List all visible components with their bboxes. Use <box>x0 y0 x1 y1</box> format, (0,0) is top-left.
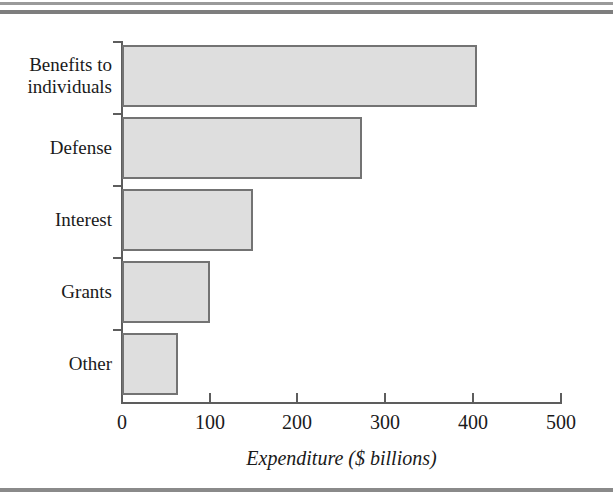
y-axis-tick <box>113 257 123 259</box>
x-axis-tick <box>209 393 211 404</box>
bar-interest <box>122 189 253 251</box>
page-rule-bottom <box>0 488 613 492</box>
y-tick-label-benefits-to-individuals: Benefits to individuals <box>4 54 112 98</box>
bar-defense <box>122 117 362 179</box>
x-axis-tick <box>384 393 386 404</box>
y-axis-tick <box>113 113 123 115</box>
bar-grants <box>122 261 210 323</box>
x-axis-tick <box>560 393 562 404</box>
y-tick-label-defense: Defense <box>4 137 112 159</box>
y-tick-label-other: Other <box>4 353 112 375</box>
y-axis-tick <box>113 329 123 331</box>
y-tick-label-interest: Interest <box>4 209 112 231</box>
x-tick-label-300: 300 <box>355 410 415 434</box>
page-rule-top-thin <box>0 2 613 5</box>
bar-chart-figure: Benefits to individuals Defense Interest… <box>0 14 613 488</box>
x-tick-label-0: 0 <box>92 410 152 434</box>
y-axis-tick <box>113 185 123 187</box>
x-tick-label-400: 400 <box>443 410 503 434</box>
x-tick-label-200: 200 <box>267 410 327 434</box>
x-axis-tick <box>296 393 298 404</box>
plot-area: Benefits to individuals Defense Interest… <box>0 14 613 488</box>
bar-other <box>122 333 178 395</box>
y-axis-tick <box>113 41 123 43</box>
x-tick-label-100: 100 <box>180 410 240 434</box>
x-tick-label-500: 500 <box>531 410 591 434</box>
y-tick-label-grants: Grants <box>4 281 112 303</box>
x-axis-line <box>121 402 562 404</box>
bar-benefits-to-individuals <box>122 45 477 107</box>
x-axis-title: Expenditure ($ billions) <box>121 446 562 470</box>
x-axis-tick <box>472 393 474 404</box>
